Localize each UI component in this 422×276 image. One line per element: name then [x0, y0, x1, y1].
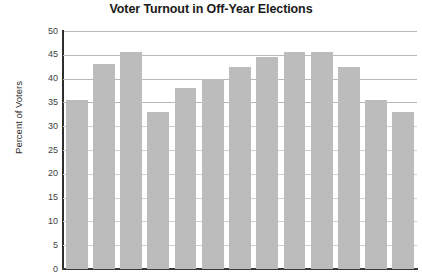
- bar: [365, 100, 387, 269]
- y-tick-label: 5: [28, 241, 58, 250]
- bar-chart: Voter Turnout in Off-Year Elections Perc…: [0, 0, 422, 276]
- bar: [392, 112, 414, 269]
- y-tick-label: 15: [28, 193, 58, 202]
- y-tick-label: 35: [28, 98, 58, 107]
- bar: [338, 67, 360, 269]
- bar-series: [63, 31, 417, 269]
- bar: [202, 79, 224, 269]
- bar: [311, 52, 333, 269]
- y-tick-label: 25: [28, 146, 58, 155]
- bar: [66, 100, 88, 269]
- y-tick-label: 50: [28, 27, 58, 36]
- bar: [256, 57, 278, 269]
- bar: [120, 52, 142, 269]
- y-tick-label: 20: [28, 169, 58, 178]
- y-tick-label: 45: [28, 50, 58, 59]
- y-tick-label: 10: [28, 217, 58, 226]
- y-tick-label: 40: [28, 74, 58, 83]
- plot-area: [63, 31, 417, 269]
- y-tick-label: 30: [28, 122, 58, 131]
- bar: [147, 112, 169, 269]
- y-axis-tick-labels: 50454035302520151050: [28, 0, 58, 276]
- bar: [229, 67, 251, 269]
- bar: [175, 88, 197, 269]
- y-axis-title: Percent of Voters: [13, 63, 24, 173]
- chart-title: Voter Turnout in Off-Year Elections: [0, 2, 422, 17]
- bar: [284, 52, 306, 269]
- y-tick-label: 0: [28, 265, 58, 274]
- bar: [93, 64, 115, 269]
